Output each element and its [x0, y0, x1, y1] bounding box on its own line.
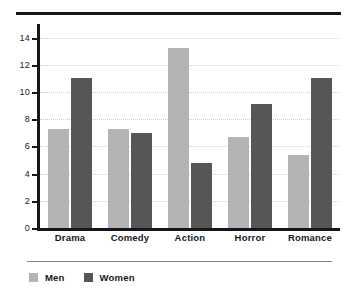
legend-divider-rule	[27, 261, 332, 262]
category-label-drama: Drama	[55, 232, 86, 243]
y-axis-tick-label: 4	[25, 169, 30, 179]
bar-group	[228, 24, 272, 228]
bar-horror-men	[228, 137, 249, 228]
y-axis-tick-label: 6	[25, 141, 30, 151]
legend-swatch-icon	[29, 273, 38, 282]
bar-drama-men	[48, 129, 69, 228]
bar-group	[288, 24, 332, 228]
chart-legend: MenWomen	[29, 272, 135, 283]
x-axis-category-labels: DramaComedyActionHorrorRomance	[40, 232, 340, 250]
y-axis-tick-label: 10	[20, 87, 30, 97]
category-label-romance: Romance	[288, 232, 332, 243]
y-axis-tick-label: 14	[20, 33, 30, 43]
bar-drama-women	[71, 78, 92, 228]
category-label-action: Action	[175, 232, 206, 243]
legend-label: Women	[100, 272, 135, 283]
legend-label: Men	[45, 272, 65, 283]
bar-group	[168, 24, 212, 228]
category-label-horror: Horror	[235, 232, 266, 243]
category-label-comedy: Comedy	[111, 232, 150, 243]
y-axis-tick-label: 8	[25, 114, 30, 124]
bar-action-men	[168, 48, 189, 228]
legend-item-men: Men	[29, 272, 65, 283]
y-axis-tick-label: 0	[25, 223, 30, 233]
bar-group	[108, 24, 152, 228]
y-axis-tick-label: 2	[25, 196, 30, 206]
bar-romance-men	[288, 155, 309, 228]
bar-comedy-women	[131, 133, 152, 228]
bar-romance-women	[311, 78, 332, 228]
bar-group	[48, 24, 92, 228]
bar-comedy-men	[108, 129, 129, 228]
bar-chart-figure: 02468101214 DramaComedyActionHorrorRoman…	[0, 0, 355, 297]
bar-horror-women	[251, 104, 272, 228]
x-axis-line	[37, 228, 340, 231]
legend-swatch-icon	[84, 273, 93, 282]
y-axis-tick-label: 12	[20, 60, 30, 70]
legend-item-women: Women	[84, 272, 135, 283]
bars-layer	[40, 24, 340, 228]
plot-area: 02468101214	[37, 24, 340, 228]
bar-action-women	[191, 163, 212, 228]
top-divider-rule	[16, 12, 341, 15]
